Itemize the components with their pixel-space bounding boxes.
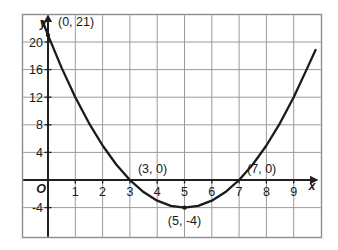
point-label-vertex: (5, -4) [168, 214, 201, 228]
point-marker-y-intercept [46, 33, 50, 37]
x-tick-label: 4 [154, 185, 161, 199]
y-tick-label: -4 [32, 201, 43, 215]
y-tick-label: 20 [29, 36, 43, 50]
point-marker-vertex [182, 205, 186, 209]
x-tick-label: 9 [290, 185, 297, 199]
x-tick-label: 8 [263, 185, 270, 199]
x-tick-label: 5 [181, 185, 188, 199]
y-tick-label: 16 [29, 63, 43, 77]
x-tick-label: 6 [208, 185, 215, 199]
y-tick-label: 8 [36, 118, 43, 132]
x-tick-label: 1 [72, 185, 79, 199]
y-tick-label: 4 [36, 146, 43, 160]
x-axis-label: x [308, 179, 317, 193]
point-label-left-root: (3, 0) [138, 162, 167, 176]
x-tick-label: 7 [236, 185, 243, 199]
parabola-graph-figure: xy 123456789-448121620O (0, 21)(3, 0)(7,… [0, 0, 338, 250]
y-tick-label: 12 [29, 91, 43, 105]
x-tick-label: 3 [126, 185, 133, 199]
point-label-right-root: (7, 0) [247, 162, 276, 176]
origin-label: O [36, 182, 46, 196]
point-label-y-intercept: (0, 21) [58, 15, 94, 29]
x-tick-label: 2 [99, 185, 106, 199]
